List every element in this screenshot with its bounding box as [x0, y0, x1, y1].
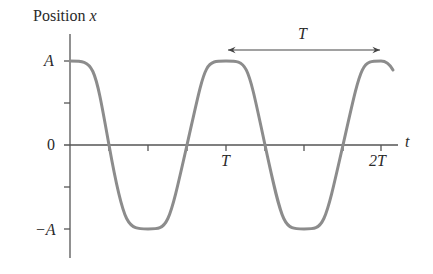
period-label: T — [298, 26, 307, 42]
y-axis-label-var: x — [89, 7, 96, 24]
ytick-label-zero: 0 — [47, 137, 55, 153]
y-axis-label-text: Position — [33, 7, 89, 24]
diagram-canvas — [0, 0, 433, 274]
xtick-label-2T: 2T — [369, 153, 386, 169]
t-axis-ticks — [109, 145, 381, 151]
ytick-label-negA: −A — [35, 222, 56, 238]
position-time-diagram: Position x A 0 −A T 2T t T — [0, 0, 433, 274]
ytick-label-A: A — [44, 53, 54, 69]
y-axis-label: Position x — [33, 8, 97, 24]
xtick-label-T: T — [221, 153, 230, 169]
t-axis-label: t — [405, 134, 409, 150]
